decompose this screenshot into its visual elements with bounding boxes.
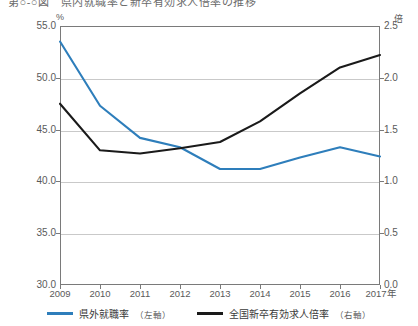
- chart-legend: 県外就職率 （左軸） 全国新卒有効求人倍率 （右軸）: [0, 306, 418, 321]
- series-plot: [60, 26, 380, 285]
- y-tick-mark: [380, 78, 384, 79]
- left-axis-unit: %: [56, 12, 64, 22]
- series-line-kengai-shushokuritsu: [60, 42, 380, 169]
- y-axis-right-tick: 1.5: [384, 125, 398, 135]
- x-axis-tick: 2016: [317, 289, 363, 299]
- y-tick-mark: [380, 233, 384, 234]
- legend-color-swatch: [197, 312, 223, 315]
- y-axis-right-tick: 2.0: [384, 73, 398, 83]
- legend-axis-note: （左軸）: [135, 308, 171, 320]
- legend-item-kyujin-bairitsu[interactable]: 全国新卒有効求人倍率 （右軸）: [197, 306, 371, 321]
- chart-title: 第○-○図 県内就職率と新卒有効求人倍率の推移: [8, 0, 408, 7]
- y-axis-right-tick: 2.5: [384, 21, 398, 31]
- legend-label: 全国新卒有効求人倍率: [229, 306, 329, 321]
- x-axis-tick: 2017年: [358, 289, 404, 299]
- y-axis-left-tick: 40.0: [37, 176, 56, 186]
- y-axis-right-tick: 0.5: [384, 228, 398, 238]
- legend-axis-note: （右軸）: [335, 308, 371, 320]
- legend-item-kengai-shushokuritsu[interactable]: 県外就職率 （左軸）: [47, 306, 171, 321]
- y-axis-right-tick: 1.0: [384, 176, 398, 186]
- y-axis-left-tick: 35.0: [37, 228, 56, 238]
- legend-color-swatch: [47, 312, 73, 315]
- y-tick-mark: [380, 181, 384, 182]
- y-axis-left-tick: 45.0: [37, 125, 56, 135]
- y-axis-left-tick: 50.0: [37, 73, 56, 83]
- series-line-kyujin-bairitsu: [60, 55, 380, 153]
- legend-label: 県外就職率: [79, 306, 129, 321]
- y-axis-left-tick: 55.0: [37, 21, 56, 31]
- y-tick-mark: [380, 130, 384, 131]
